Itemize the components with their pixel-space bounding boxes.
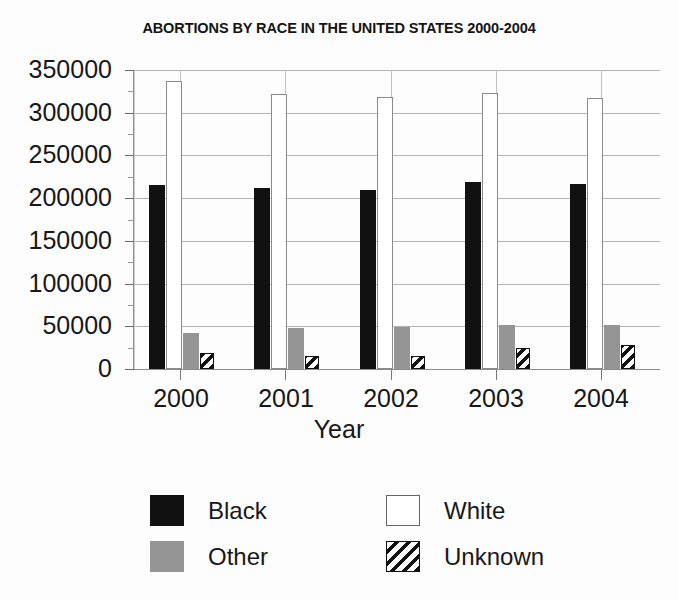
y-axis-tick xyxy=(125,155,134,156)
bar-other-2000 xyxy=(183,333,199,369)
y-axis-tick xyxy=(125,284,134,285)
bar-black-2002 xyxy=(360,190,376,369)
legend-item-white[interactable]: White xyxy=(386,495,505,526)
bar-unknown-2001 xyxy=(305,356,319,369)
bar-white-2002 xyxy=(377,97,393,369)
bar-other-2003 xyxy=(499,325,515,369)
x-axis-title: Year xyxy=(0,415,678,444)
x-axis-label-2001: 2001 xyxy=(231,384,341,412)
bar-other-2004 xyxy=(604,325,620,369)
swatch-white-icon xyxy=(386,495,420,526)
y-axis-label: 350000 xyxy=(0,57,112,82)
swatch-unknown-icon xyxy=(386,541,420,572)
bar-black-2001 xyxy=(254,188,270,369)
legend-label: Other xyxy=(208,544,268,570)
chart-legend: BlackWhiteOtherUnknown xyxy=(150,495,570,585)
x-axis-label-2000: 2000 xyxy=(126,384,236,412)
bar-unknown-2004 xyxy=(621,345,635,369)
bar-black-2004 xyxy=(570,184,586,369)
chart-figure: ABORTIONS BY RACE IN THE UNITED STATES 2… xyxy=(0,0,678,600)
legend-item-black[interactable]: Black xyxy=(150,495,267,526)
bar-unknown-2003 xyxy=(516,348,530,369)
y-axis-label: 150000 xyxy=(0,228,112,253)
bar-white-2004 xyxy=(587,98,603,369)
x-axis-label-2004: 2004 xyxy=(546,384,656,412)
bar-black-2003 xyxy=(465,182,481,369)
x-axis-tick xyxy=(496,370,497,380)
bar-other-2001 xyxy=(288,328,304,369)
gridline xyxy=(134,113,660,114)
x-axis-label-2003: 2003 xyxy=(441,384,551,412)
y-axis-label: 250000 xyxy=(0,142,112,167)
bar-black-2000 xyxy=(149,185,165,369)
swatch-other-icon xyxy=(150,541,184,572)
bar-white-2003 xyxy=(482,93,498,369)
x-axis-tick xyxy=(285,370,286,380)
x-axis-tick xyxy=(391,370,392,380)
y-axis-tick xyxy=(125,113,134,114)
gridline xyxy=(134,70,660,71)
gridline xyxy=(134,369,660,370)
legend-label: Black xyxy=(208,498,267,524)
bar-unknown-2002 xyxy=(411,356,425,369)
gridline xyxy=(134,155,660,156)
swatch-black-icon xyxy=(150,495,184,526)
bar-other-2002 xyxy=(394,327,410,369)
category-separator xyxy=(134,70,135,369)
legend-item-unknown[interactable]: Unknown xyxy=(386,541,544,572)
legend-item-other[interactable]: Other xyxy=(150,541,268,572)
y-axis-label: 50000 xyxy=(0,313,112,338)
bar-unknown-2000 xyxy=(200,353,214,369)
y-axis-label: 100000 xyxy=(0,271,112,296)
y-axis-tick xyxy=(125,198,134,199)
y-axis-tick xyxy=(125,326,134,327)
bar-white-2001 xyxy=(271,94,287,369)
y-axis-label: 300000 xyxy=(0,100,112,125)
y-axis-label: 0 xyxy=(0,356,112,381)
y-axis-label: 200000 xyxy=(0,185,112,210)
x-axis-tick xyxy=(601,370,602,380)
plot-area xyxy=(134,70,660,369)
legend-label: Unknown xyxy=(444,544,544,570)
y-axis-tick xyxy=(125,241,134,242)
x-axis-label-2002: 2002 xyxy=(336,384,446,412)
y-axis-tick xyxy=(125,70,134,71)
bar-white-2000 xyxy=(166,81,182,369)
y-axis-tick xyxy=(125,369,134,370)
chart-title: ABORTIONS BY RACE IN THE UNITED STATES 2… xyxy=(0,20,678,36)
legend-label: White xyxy=(444,498,505,524)
x-axis-tick xyxy=(180,370,181,380)
